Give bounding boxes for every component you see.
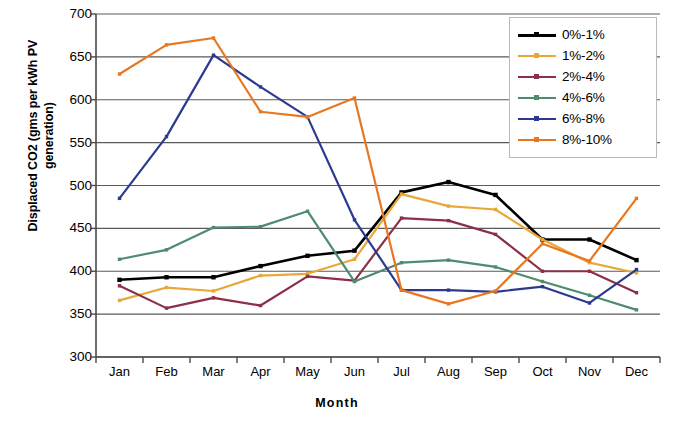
legend-item-label: 1%-2% (562, 48, 605, 63)
data-point (635, 268, 638, 271)
data-point (447, 288, 450, 291)
data-point (541, 238, 544, 241)
data-point (493, 193, 497, 197)
data-point (306, 115, 309, 118)
x-tick-label: Jun (344, 364, 365, 379)
data-point (117, 278, 121, 282)
data-point (635, 197, 638, 200)
legend-item[interactable]: 0%-1% (518, 24, 649, 45)
data-point (494, 265, 497, 268)
data-point (541, 285, 544, 288)
data-point (494, 289, 497, 292)
data-point (164, 275, 168, 279)
data-point (635, 291, 638, 294)
legend-color-swatch-icon (518, 50, 556, 62)
data-point (212, 226, 215, 229)
legend-item[interactable]: 1%-2% (518, 45, 649, 66)
data-point (165, 135, 168, 138)
data-point (541, 242, 544, 245)
legend-item-label: 4%-6% (562, 90, 605, 105)
x-tick-label: Apr (250, 364, 270, 379)
legend-item[interactable]: 8%-10% (518, 129, 649, 150)
data-point (259, 304, 262, 307)
data-point (400, 192, 403, 195)
data-point (165, 248, 168, 251)
x-tick-label: Jan (109, 364, 130, 379)
legend-color-swatch-icon (518, 29, 556, 41)
legend-item[interactable]: 4%-6% (518, 87, 649, 108)
chart-legend: 0%-1%1%-2%2%-4%4%-6%6%-8%8%-10% (509, 17, 657, 158)
legend-item[interactable]: 2%-4% (518, 66, 649, 87)
data-point (259, 85, 262, 88)
data-point (212, 36, 215, 39)
data-point (212, 53, 215, 56)
data-point (118, 299, 121, 302)
data-point (588, 294, 591, 297)
data-point (634, 258, 638, 262)
legend-color-swatch-icon (518, 71, 556, 83)
legend-item-label: 6%-8% (562, 111, 605, 126)
data-point (446, 180, 450, 184)
data-point (165, 43, 168, 46)
x-axis-tick-labels: JanFebMarAprMayJunJulAugSepOctNovDec (0, 364, 674, 386)
data-point (447, 258, 450, 261)
x-tick-label: Jul (393, 364, 410, 379)
data-point (212, 289, 215, 292)
legend-color-swatch-icon (518, 134, 556, 146)
data-point (541, 270, 544, 273)
data-point (447, 204, 450, 207)
data-point (165, 286, 168, 289)
data-point (212, 296, 215, 299)
data-point (635, 308, 638, 311)
data-point (588, 270, 591, 273)
data-point (447, 219, 450, 222)
data-point (259, 225, 262, 228)
data-point (494, 208, 497, 211)
x-tick-label: May (295, 364, 320, 379)
data-point (211, 275, 215, 279)
data-point (352, 248, 356, 252)
data-point (588, 259, 591, 262)
data-point (165, 306, 168, 309)
x-axis-title: Month (0, 396, 674, 410)
data-point (447, 302, 450, 305)
data-point (353, 280, 356, 283)
data-point (306, 275, 309, 278)
x-tick-label: Oct (532, 364, 552, 379)
x-tick-label: Mar (202, 364, 224, 379)
data-point (259, 110, 262, 113)
series-2pct-4pct (118, 216, 638, 309)
data-point (541, 280, 544, 283)
x-tick-label: Dec (625, 364, 648, 379)
data-point (353, 218, 356, 221)
legend-color-swatch-icon (518, 92, 556, 104)
x-tick-label: Sep (484, 364, 507, 379)
series-line (120, 194, 637, 300)
data-point (400, 288, 403, 291)
legend-color-swatch-icon (518, 113, 556, 125)
legend-item-label: 0%-1% (562, 27, 605, 42)
data-point (118, 72, 121, 75)
legend-item[interactable]: 6%-8% (518, 108, 649, 129)
data-point (118, 258, 121, 261)
line-chart: Displaced CO2 (gms per kWh PV generation… (0, 0, 674, 423)
data-point (494, 233, 497, 236)
data-point (353, 258, 356, 261)
data-point (400, 216, 403, 219)
data-point (305, 254, 309, 258)
data-point (588, 301, 591, 304)
x-tick-label: Aug (437, 364, 460, 379)
data-point (635, 271, 638, 274)
data-point (258, 264, 262, 268)
data-point (118, 197, 121, 200)
data-point (400, 261, 403, 264)
series-line (120, 218, 637, 308)
x-tick-label: Feb (155, 364, 177, 379)
legend-item-label: 8%-10% (562, 132, 612, 147)
legend-item-label: 2%-4% (562, 69, 605, 84)
data-point (118, 284, 121, 287)
data-point (587, 237, 591, 241)
data-point (353, 96, 356, 99)
x-tick-label: Nov (578, 364, 601, 379)
data-point (259, 274, 262, 277)
